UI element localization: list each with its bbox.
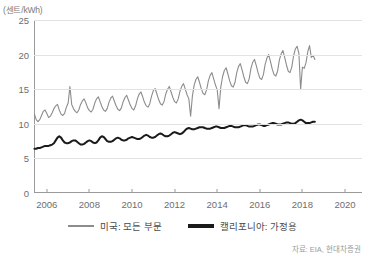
chart-legend: 미국: 모든 부문 캘리포니아: 가정용 [0, 219, 365, 233]
x-axis-tick-label: 2014 [207, 199, 228, 210]
x-axis-tick-mark [131, 189, 132, 193]
legend-label: 미국: 모든 부문 [100, 219, 162, 233]
x-axis-tick-label: 2012 [164, 199, 185, 210]
x-axis-tick-mark [217, 189, 218, 193]
x-axis-tick-label: 2006 [36, 199, 57, 210]
x-axis-tick-mark [89, 189, 90, 193]
x-axis-tick-label: 2016 [249, 199, 270, 210]
x-axis-tick-label: 2008 [79, 199, 100, 210]
y-axis-tick-label: 10 [18, 118, 29, 129]
y-axis-tick-label: 0 [24, 188, 29, 199]
gridline [34, 124, 362, 125]
x-axis-tick-label: 2010 [121, 199, 142, 210]
x-axis-tick-label: 2018 [292, 199, 313, 210]
gridline [34, 158, 362, 159]
gridline [34, 89, 362, 90]
source-attribution: 자료: EIA, 현대차증권 [292, 243, 361, 254]
y-axis-tick-label: 15 [18, 84, 29, 95]
x-axis-tick-mark [46, 189, 47, 193]
x-axis-tick-mark [302, 189, 303, 193]
legend-label: 캘리포니아: 가정용 [220, 219, 297, 233]
series-line [34, 46, 314, 122]
y-axis-tick-label: 20 [18, 49, 29, 60]
legend-swatch-icon [68, 225, 94, 228]
gridline [34, 55, 362, 56]
y-axis-unit-label: (센트/kWh) [3, 3, 42, 15]
x-axis-tick-mark [174, 189, 175, 193]
legend-item-california-residential: 캘리포니아: 가정용 [188, 219, 297, 233]
y-axis-tick-label: 25 [18, 15, 29, 26]
plot-area: 0510152025200620082010201220142016201820… [34, 20, 362, 193]
chart-container: (센트/kWh) 0510152025200620082010201220142… [0, 0, 365, 256]
legend-item-us-all-sectors: 미국: 모든 부문 [68, 219, 162, 233]
gridline [34, 20, 362, 21]
legend-swatch-icon [188, 224, 214, 228]
x-axis-tick-mark [259, 189, 260, 193]
series-lines [34, 20, 362, 193]
x-axis-tick-mark [344, 189, 345, 193]
y-axis-tick-label: 5 [24, 153, 29, 164]
x-axis-tick-label: 2020 [334, 199, 355, 210]
